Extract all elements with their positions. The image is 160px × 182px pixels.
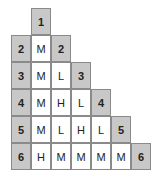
column-header: 5 xyxy=(111,116,131,143)
matrix-cell: L xyxy=(71,89,91,116)
row-header: 3 xyxy=(11,62,31,89)
matrix-cell: L xyxy=(51,62,71,89)
column-header: 1 xyxy=(31,8,51,35)
matrix-cell: M xyxy=(31,62,51,89)
matrix-cell: H xyxy=(31,143,51,170)
column-header: 3 xyxy=(71,62,91,89)
matrix-cell: M xyxy=(91,143,111,170)
matrix-cell: L xyxy=(91,116,111,143)
row-header: 4 xyxy=(11,89,31,116)
matrix-cell: M xyxy=(31,35,51,62)
row-header: 6 xyxy=(11,143,31,170)
matrix-cell: M xyxy=(71,143,91,170)
matrix-cell: H xyxy=(51,89,71,116)
matrix-cell: M xyxy=(111,143,131,170)
matrix-cell: M xyxy=(51,143,71,170)
column-header: 6 xyxy=(131,143,151,170)
matrix-cell: M xyxy=(31,89,51,116)
matrix-cell: M xyxy=(31,116,51,143)
matrix-cell: H xyxy=(71,116,91,143)
row-header: 5 xyxy=(11,116,31,143)
column-header: 4 xyxy=(91,89,111,116)
matrix-cell: L xyxy=(51,116,71,143)
row-header: 2 xyxy=(11,35,31,62)
column-header: 2 xyxy=(51,35,71,62)
